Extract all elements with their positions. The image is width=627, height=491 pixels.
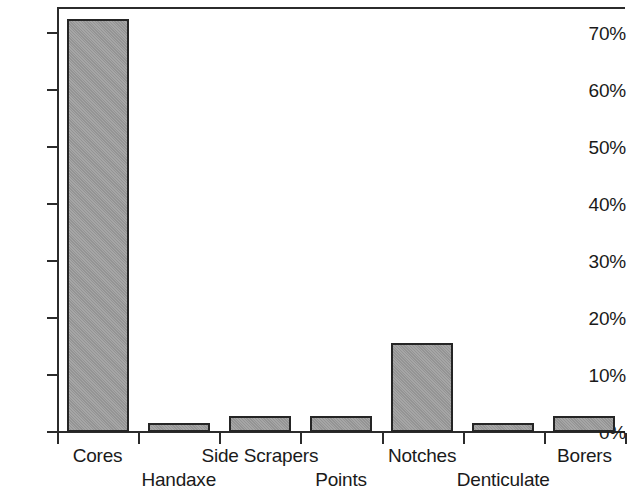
y-axis-tick-mark — [47, 317, 57, 319]
y-axis-tick-mark — [47, 32, 57, 34]
x-axis-tick-mark — [138, 433, 140, 444]
bar — [472, 423, 534, 432]
bar — [391, 343, 453, 432]
y-axis-tick-mark — [47, 203, 57, 205]
x-axis-tick-mark — [382, 433, 384, 444]
x-axis-category-label: Handaxe — [141, 470, 216, 489]
bar — [229, 416, 291, 432]
x-axis-tick-mark — [544, 433, 546, 444]
x-axis-category-label: Points — [315, 470, 367, 489]
bars-group — [57, 7, 625, 432]
x-axis-category-label: Notches — [388, 446, 456, 465]
x-axis-tick-mark — [219, 433, 221, 444]
x-axis-category-label: Cores — [73, 446, 123, 465]
x-axis-tick-mark — [300, 433, 302, 444]
y-axis-tick-mark — [47, 431, 57, 433]
y-axis-tick-mark — [47, 89, 57, 91]
bar — [67, 19, 129, 432]
x-axis-tick-mark — [463, 433, 465, 444]
bar — [310, 416, 372, 432]
y-axis-tick-mark — [47, 260, 57, 262]
bar — [148, 423, 210, 432]
y-axis-tick-mark — [47, 374, 57, 376]
y-axis-tick-mark — [47, 146, 57, 148]
x-axis-category-label: Side Scrapers — [201, 446, 318, 465]
x-axis-tick-mark — [57, 433, 59, 444]
x-axis-category-label: Borers — [557, 446, 612, 465]
x-axis-category-label: Denticulate — [457, 470, 550, 489]
bar — [553, 416, 615, 432]
